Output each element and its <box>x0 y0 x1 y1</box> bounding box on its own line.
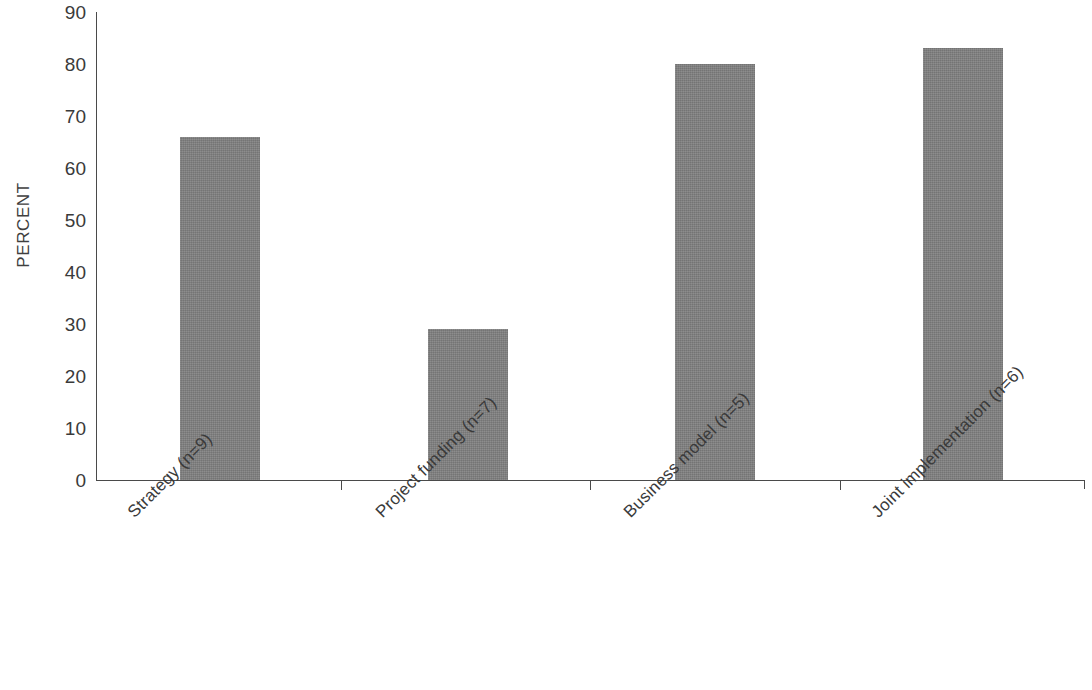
y-axis-tick-label: 40 <box>46 263 86 282</box>
y-axis-tick-label: 0 <box>46 471 86 490</box>
y-axis-tick-label: 50 <box>46 211 86 230</box>
y-axis-tick-label: 90 <box>46 3 86 22</box>
y-axis-tick-label: 10 <box>46 419 86 438</box>
bar-chart: PERCENT 0102030405060708090 Strategy (n=… <box>0 0 1092 690</box>
x-axis-separator-tick <box>341 481 342 490</box>
y-axis-tick-labels: 0102030405060708090 <box>42 0 86 690</box>
x-axis-separator-tick <box>590 481 591 490</box>
x-axis-separator-tick <box>840 481 841 490</box>
x-axis-end-tick <box>1084 480 1085 489</box>
y-axis-tick-label: 60 <box>46 159 86 178</box>
y-axis-tick-label: 80 <box>46 55 86 74</box>
plot-area <box>96 12 1085 480</box>
y-axis-title: PERCENT <box>14 165 34 285</box>
y-axis-tick-label: 30 <box>46 315 86 334</box>
y-axis-tick-label: 70 <box>46 107 86 126</box>
y-axis-tick-label: 20 <box>46 367 86 386</box>
bar-0 <box>180 137 260 480</box>
